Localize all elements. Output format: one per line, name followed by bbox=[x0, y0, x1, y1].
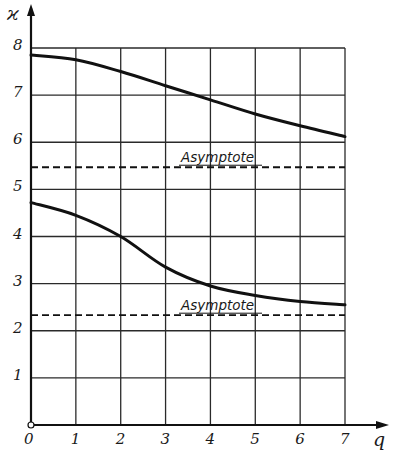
y-tick-label: 4 bbox=[12, 225, 23, 243]
x-tick-label: 0 bbox=[24, 430, 34, 448]
y-tick-label: 3 bbox=[13, 272, 23, 290]
x-tick-label: 4 bbox=[204, 430, 215, 448]
y-tick-label: 7 bbox=[13, 83, 23, 101]
y-tick-label: 8 bbox=[13, 36, 23, 54]
x-tick-label: 1 bbox=[71, 430, 81, 448]
data-curve bbox=[31, 55, 345, 137]
y-axis-arrow-icon bbox=[27, 4, 35, 16]
chart: AsymptoteAsymptote 0123456712345678ϰq bbox=[0, 0, 398, 471]
x-tick-label: 7 bbox=[340, 430, 350, 448]
y-axis-title: ϰ bbox=[6, 2, 19, 24]
x-tick-label: 3 bbox=[161, 430, 171, 448]
x-tick-label: 2 bbox=[115, 430, 126, 448]
asymptote-label: Asymptote bbox=[180, 149, 254, 165]
y-tick-label: 1 bbox=[13, 366, 23, 384]
asymptote-lines: AsymptoteAsymptote bbox=[31, 149, 345, 315]
y-tick-label: 5 bbox=[13, 177, 23, 195]
y-tick-label: 6 bbox=[13, 130, 23, 148]
x-tick-label: 6 bbox=[295, 430, 305, 448]
y-tick-label: 2 bbox=[12, 319, 23, 337]
origin-marker bbox=[28, 422, 34, 428]
tick-labels: 0123456712345678ϰq bbox=[6, 2, 385, 450]
asymptote-label: Asymptote bbox=[180, 297, 254, 313]
data-curves bbox=[31, 55, 345, 305]
data-curve bbox=[31, 203, 345, 305]
grid-lines bbox=[31, 48, 345, 425]
x-tick-label: 5 bbox=[250, 430, 260, 448]
x-axis-title: q bbox=[373, 428, 385, 450]
